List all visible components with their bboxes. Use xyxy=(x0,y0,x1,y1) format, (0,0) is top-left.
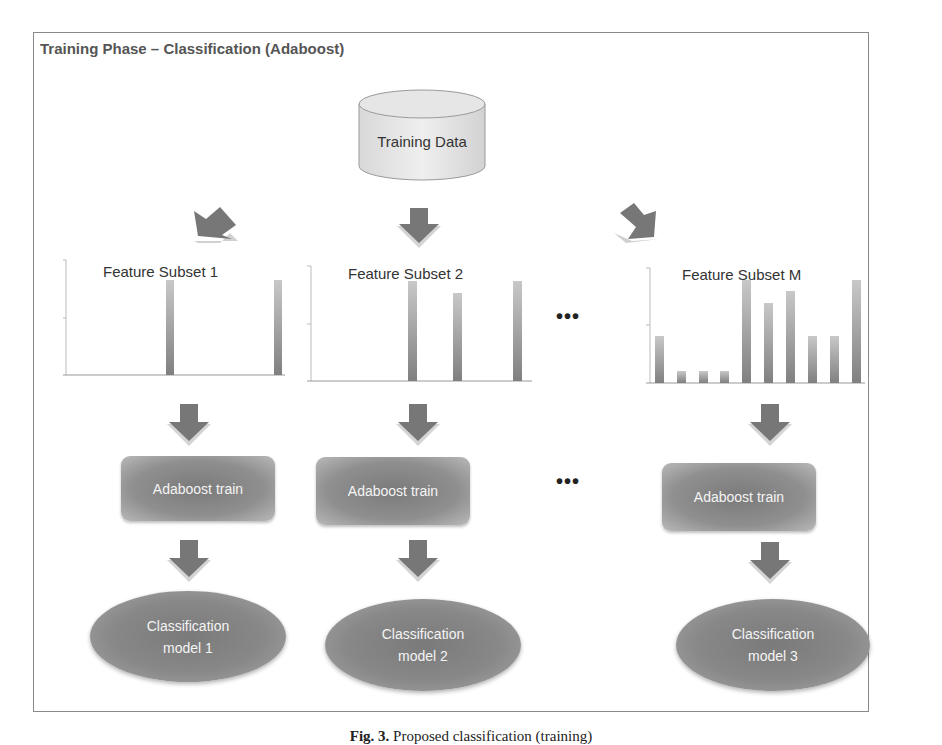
adaboost-train-box-m: Adaboost train xyxy=(662,463,816,531)
caption-prefix: Fig. 3. xyxy=(350,728,390,744)
model-label-line1: Classification xyxy=(147,615,229,637)
arrow-down-left-icon xyxy=(180,203,242,247)
arrow-down-icon xyxy=(744,404,796,446)
classification-model-1: Classification model 1 xyxy=(90,591,286,682)
feature-subset-2-chart xyxy=(307,264,535,384)
arrow-down-icon xyxy=(163,540,215,582)
adaboost-train-box-1: Adaboost train xyxy=(121,456,275,521)
feature-subset-1-label: Feature Subset 1 xyxy=(103,263,218,280)
feature-subset-m-label: Feature Subset M xyxy=(682,266,801,283)
ellipsis-separator-bottom: ••• xyxy=(556,470,580,493)
feature-subset-m-chart xyxy=(643,266,868,386)
model-label-line1: Classification xyxy=(382,623,464,645)
arrow-down-icon xyxy=(393,208,445,248)
figure-caption: Fig. 3. Proposed classification (trainin… xyxy=(0,728,942,745)
ellipsis-separator-top: ••• xyxy=(556,305,580,328)
adaboost-train-label: Adaboost train xyxy=(348,483,438,499)
arrow-down-icon xyxy=(392,404,444,446)
adaboost-train-label: Adaboost train xyxy=(694,489,784,505)
classification-model-2: Classification model 2 xyxy=(325,599,521,691)
arrow-down-right-icon xyxy=(612,203,662,247)
model-label-line2: model 1 xyxy=(163,637,213,659)
model-label-line2: model 2 xyxy=(398,645,448,667)
caption-text: Proposed classification (training) xyxy=(389,728,592,744)
arrow-down-icon xyxy=(163,404,215,446)
model-label-line2: model 3 xyxy=(748,645,798,667)
arrow-down-icon xyxy=(392,540,444,582)
classification-model-3: Classification model 3 xyxy=(676,599,870,691)
feature-subset-2-label: Feature Subset 2 xyxy=(348,265,463,282)
adaboost-train-box-2: Adaboost train xyxy=(316,457,470,525)
training-data-label: Training Data xyxy=(357,133,487,150)
model-label-line1: Classification xyxy=(732,623,814,645)
adaboost-train-label: Adaboost train xyxy=(153,481,243,497)
arrow-down-icon xyxy=(744,542,796,584)
diagram-title: Training Phase – Classification (Adaboos… xyxy=(40,40,344,57)
